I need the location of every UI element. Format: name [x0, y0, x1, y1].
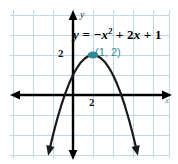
x-axis-tick-label-2: 2: [89, 97, 95, 108]
equation-constant: + 1: [144, 27, 162, 42]
equation-exponent: 2: [108, 27, 112, 36]
equation-y: y: [73, 27, 79, 42]
vertex-coordinate-label: (1, 2): [95, 47, 121, 58]
equation-equals: =: [82, 27, 90, 42]
quadratic-graph-figure: y = −x2 + 2x + 1 (1, 2) 2 2 y x: [0, 0, 178, 164]
equation-linear-coefficient: + 2: [116, 27, 134, 42]
x-axis-name-label: x: [165, 96, 169, 105]
equation-linear-x: x: [134, 27, 141, 42]
equation-neg-x-term: −x: [94, 27, 109, 42]
y-axis-tick-label-2: 2: [58, 48, 64, 59]
equation-label: y = −x2 + 2x + 1: [73, 28, 162, 41]
y-axis-name-label: y: [80, 10, 84, 20]
coordinate-plane: [0, 0, 178, 164]
